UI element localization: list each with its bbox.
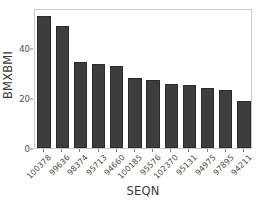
x-axis-tick-mark	[79, 149, 80, 152]
bar	[237, 101, 250, 149]
x-axis-tick-mark	[116, 149, 117, 152]
x-axis-tick-mark	[225, 149, 226, 152]
x-axis-tick-mark	[98, 149, 99, 152]
y-axis-tick-label: 40	[19, 44, 30, 54]
bar	[110, 66, 123, 149]
x-axis-tick-mark	[152, 149, 153, 152]
x-axis-tick-mark	[243, 149, 244, 152]
x-axis-title: SEQN	[34, 184, 252, 198]
x-axis-tick-label: 100378	[25, 153, 53, 181]
bar	[37, 16, 50, 149]
x-axis-tick-mark	[61, 149, 62, 152]
bar	[146, 80, 159, 148]
bar	[74, 62, 87, 148]
y-axis-title-label: BMXBMI	[1, 51, 15, 99]
bar	[92, 64, 105, 148]
y-axis-tick-mark	[30, 99, 33, 100]
x-axis-tick-mark	[170, 149, 171, 152]
bar	[201, 88, 214, 148]
bars-layer	[35, 10, 251, 148]
bar	[128, 78, 141, 148]
bar	[56, 26, 69, 149]
bar-chart: BMXBMI 02040 100378996369837495713946601…	[0, 0, 261, 205]
x-axis-tick-mark	[207, 149, 208, 152]
bar	[165, 84, 178, 148]
x-axis-tick-labels: 1003789963698374957139466010018595576102…	[34, 153, 252, 183]
x-axis-tick-mark	[43, 149, 44, 152]
y-axis-tick-mark	[30, 49, 33, 50]
y-axis-tick-labels: 02040	[14, 0, 30, 152]
y-axis-tick-mark	[30, 149, 33, 150]
bar	[219, 90, 232, 148]
x-axis-tick-mark	[134, 149, 135, 152]
plot-panel	[34, 9, 252, 149]
bar	[183, 85, 196, 148]
x-axis-tick-mark	[188, 149, 189, 152]
y-axis-tick-label: 20	[19, 94, 30, 104]
